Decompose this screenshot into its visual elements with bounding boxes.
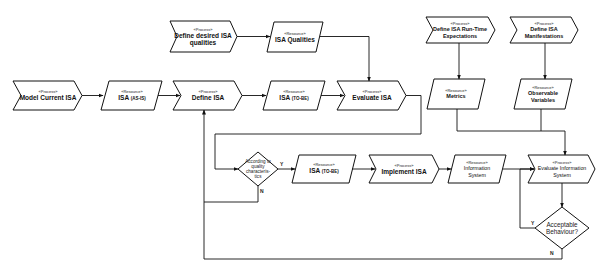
node-label: Define desired ISA qualities: [174, 32, 232, 47]
node-define-runtime-expectations: «Process» Define ISA Run-Time Expectatio…: [431, 18, 489, 42]
node-isa-to-be-1: «Resource» ISA (TO-BE): [266, 82, 322, 109]
node-isa-as-is: «Resource» ISA (AS-IS): [104, 82, 160, 109]
node-isa-to-be-2: «Resource» ISA (TO-BE): [296, 156, 352, 182]
decision-label: According to quality characteris-tics: [243, 159, 273, 180]
node-model-current-isa: «Process» Model Current ISA: [18, 82, 78, 109]
node-implement-isa: «Process» Implement ISA: [375, 156, 433, 182]
node-acceptable-decision: Acceptable Behaviour?: [542, 215, 582, 241]
edge-metrics-to-evalinfo: [457, 109, 565, 155]
node-label: Define ISA Manifestations: [524, 26, 564, 39]
edge-qualities-to-evaluate: [320, 37, 369, 82]
node-label: Define ISA: [192, 94, 225, 102]
node-quality-decision: According to quality characteris-tics: [243, 157, 273, 181]
edge-decision-no: [204, 110, 258, 202]
node-information-system: «Resource» Information System: [452, 156, 502, 182]
node-define-desired-qualities: «Process» Define desired ISA qualities: [174, 22, 232, 51]
node-label: Metrics: [446, 93, 465, 101]
node-define-manifestations: «Process» Define ISA Manifestations: [515, 18, 573, 42]
node-label: ISA (TO-BE): [279, 94, 308, 103]
node-label: ISA Qualities: [275, 36, 315, 44]
node-label: ISA (AS-IS): [118, 94, 145, 103]
edge-label-no-acceptable: N: [550, 250, 554, 256]
node-metrics: «Resource» Metrics: [431, 80, 481, 108]
node-evaluate-isa: «Process» Evaluate ISA: [344, 82, 400, 109]
node-label: Define ISA Run-Time Expectations: [431, 26, 489, 39]
node-label: Evaluate Information System: [533, 165, 591, 178]
edge-acceptable-no: [204, 202, 562, 259]
node-define-isa: «Process» Define ISA: [180, 82, 236, 109]
node-evaluate-information-system: «Process» Evaluate Information System: [533, 156, 591, 182]
edge-label-yes-acceptable: Y: [531, 220, 534, 226]
node-label: Information System: [460, 165, 494, 178]
node-label: ISA (TO-BE): [309, 167, 338, 176]
node-isa-qualities: «Resource» ISA Qualities: [270, 23, 320, 51]
edge-label-no-quality: N: [260, 188, 264, 194]
edge-label-yes-quality: Y: [280, 161, 283, 167]
node-label: Implement ISA: [381, 168, 426, 176]
decision-label: Acceptable Behaviour?: [542, 221, 582, 236]
node-label: Evaluate ISA: [352, 94, 391, 102]
node-label: Model Current ISA: [20, 94, 77, 102]
node-label: Observable Variables: [525, 90, 561, 103]
node-observable-variables: «Resource» Observable Variables: [518, 80, 568, 108]
